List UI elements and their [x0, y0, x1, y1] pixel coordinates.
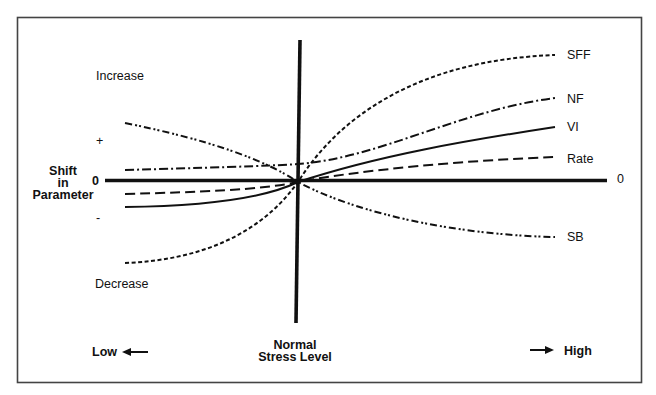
curve-nf: [125, 98, 555, 170]
right-arrow-icon: [530, 346, 554, 354]
zero-right-label: 0: [617, 172, 624, 186]
label-sff: SFF: [567, 48, 591, 62]
curve-rate: [125, 157, 555, 194]
label-nf: NF: [567, 92, 584, 106]
plus-label: +: [96, 134, 103, 148]
label-vi: VI: [567, 120, 579, 134]
stress-parameter-diagram: SFF NF VI Rate SB Increase Decrease + - …: [0, 0, 656, 395]
increase-label: Increase: [96, 69, 144, 83]
y-label-parameter: Parameter: [32, 188, 93, 202]
left-arrow-icon: [122, 348, 148, 356]
decrease-label: Decrease: [95, 277, 149, 291]
stress-level-label: Stress Level: [258, 350, 332, 364]
zero-left-label: 0: [92, 174, 99, 188]
label-sb: SB: [567, 230, 584, 244]
minus-label: -: [96, 211, 100, 225]
high-label: High: [564, 344, 592, 358]
curve-vi: [125, 127, 555, 207]
curve-sff: [125, 55, 555, 263]
low-label: Low: [92, 345, 117, 359]
label-rate: Rate: [567, 152, 593, 166]
